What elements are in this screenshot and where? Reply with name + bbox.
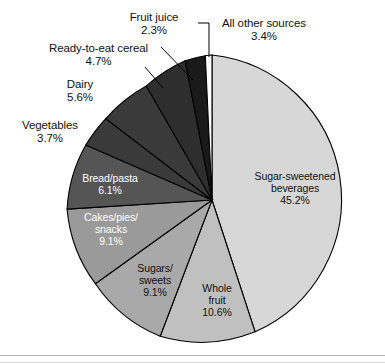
bottom-divider-secondary [0, 362, 385, 363]
label-fruit-juice-text: Fruit juice [130, 11, 179, 23]
label-bread-pasta-value: 6.1% [62, 184, 158, 196]
label-all-other-sources-text: All other sources [222, 17, 306, 29]
label-whole-fruit: Whole fruit 10.6% [184, 282, 250, 318]
label-whole-fruit-text-1: Whole [184, 282, 250, 294]
label-bread-pasta-text: Bread/pasta [62, 172, 158, 184]
label-sugars-sweets-text-1: Sugars/ [117, 262, 193, 274]
label-vegetables: Vegetables 3.7% [7, 119, 93, 145]
label-dairy-text: Dairy [67, 78, 93, 90]
label-ready-to-eat-cereal-text: Ready-to-eat cereal [49, 42, 148, 54]
label-ready-to-eat-cereal-value: 4.7% [26, 55, 171, 68]
label-cakes-pies-snacks-value: 9.1% [68, 235, 154, 247]
label-fruit-juice: Fruit juice 2.3% [112, 11, 196, 37]
label-sugar-sweetened-beverages-value: 45.2% [239, 194, 351, 206]
label-cakes-pies-snacks-text-2: snacks [68, 223, 154, 235]
label-bread-pasta: Bread/pasta 6.1% [62, 172, 158, 196]
label-all-other-sources-value: 3.4% [204, 30, 324, 43]
label-vegetables-text: Vegetables [22, 119, 78, 131]
label-all-other-sources: All other sources 3.4% [204, 17, 324, 43]
label-ready-to-eat-cereal: Ready-to-eat cereal 4.7% [26, 42, 171, 68]
label-sugars-sweets-value: 9.1% [117, 286, 193, 298]
label-sugar-sweetened-beverages: Sugar-sweetened beverages 45.2% [239, 170, 351, 206]
label-sugars-sweets-text-2: sweets [117, 274, 193, 286]
bottom-divider [0, 355, 385, 356]
label-dairy: Dairy 5.6% [42, 78, 118, 104]
label-sugar-sweetened-beverages-text-1: Sugar-sweetened [239, 170, 351, 182]
label-whole-fruit-value: 10.6% [184, 306, 250, 318]
label-whole-fruit-text-2: fruit [184, 294, 250, 306]
label-sugars-sweets: Sugars/ sweets 9.1% [117, 262, 193, 298]
label-dairy-value: 5.6% [42, 91, 118, 104]
label-vegetables-value: 3.7% [7, 132, 93, 145]
label-fruit-juice-value: 2.3% [112, 24, 196, 37]
label-cakes-pies-snacks-text-1: Cakes/pies/ [68, 211, 154, 223]
pie-chart-figure: Fruit juice 2.3% All other sources 3.4% … [0, 0, 385, 364]
label-cakes-pies-snacks: Cakes/pies/ snacks 9.1% [68, 211, 154, 247]
label-sugar-sweetened-beverages-text-2: beverages [239, 182, 351, 194]
